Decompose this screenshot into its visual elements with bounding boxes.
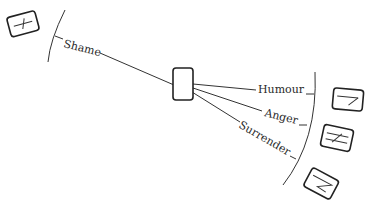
center-node	[173, 68, 193, 100]
zigzag-line-icon	[303, 167, 339, 200]
line-with-angle-icon	[332, 88, 364, 112]
branch-label-anger: Anger	[262, 106, 300, 127]
diagram-canvas: Shame Humour Anger Surrender	[0, 0, 371, 209]
crossed-line-icon	[6, 10, 39, 37]
double-line-crossed-icon	[320, 124, 354, 152]
branch-label-shame: Shame	[62, 37, 102, 59]
left-boundary-arc	[48, 10, 65, 62]
branch-label-humour: Humour	[258, 83, 305, 96]
branch-label-surrender: Surrender	[237, 118, 294, 158]
branch-surrender: Surrender	[192, 92, 296, 159]
branch-shame: Shame	[55, 36, 174, 85]
